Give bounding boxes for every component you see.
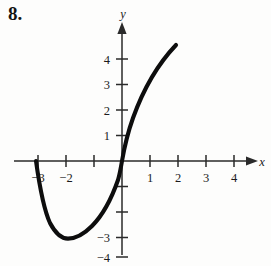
x-axis-arrowhead: [246, 156, 258, 165]
x-tick-label--2: −2: [59, 171, 72, 185]
x-tick-label-2: 2: [175, 171, 181, 185]
y-axis-label: y: [118, 7, 126, 21]
y-tick-label-3: 3: [104, 78, 110, 92]
y-tick-label-4: 4: [104, 53, 111, 67]
x-axis-label: x: [258, 155, 265, 169]
x-tick-label-4: 4: [231, 171, 238, 185]
graph-plot: −3 −2 1 2 3 4 1 2 3 4 −3 −4 x y: [0, 0, 271, 266]
x-tick-label-3: 3: [203, 171, 209, 185]
y-tick-label--4: −4: [97, 251, 111, 265]
y-axis-arrowhead: [117, 22, 126, 34]
x-tick-label-1: 1: [147, 171, 153, 185]
y-tick-label-1: 1: [104, 129, 110, 143]
figure-root: 8. −3 −2 1 2 3 4 1 2 3 4: [0, 0, 271, 266]
y-tick-label--3: −3: [97, 231, 110, 245]
y-tick-label-2: 2: [104, 104, 110, 118]
